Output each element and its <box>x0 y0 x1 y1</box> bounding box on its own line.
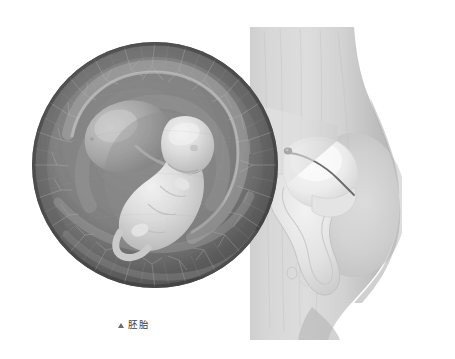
embryo-eye-spot <box>190 145 198 151</box>
caption-label: 胚胎 <box>128 319 149 331</box>
villi-detail-dot <box>90 137 94 140</box>
embryo-magnified-circle <box>32 38 278 292</box>
figure-caption: 胚胎 <box>118 319 228 331</box>
illustration-page: 胚胎 <box>0 0 455 359</box>
embryo-node-highlight <box>285 149 288 151</box>
triangle-up-icon <box>118 323 124 328</box>
embryo-node <box>284 148 292 155</box>
